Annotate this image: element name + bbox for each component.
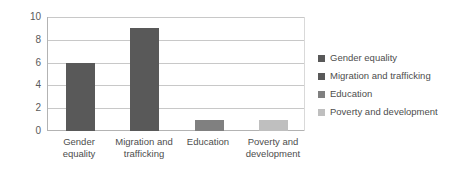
legend-item[interactable]: Education <box>318 85 463 103</box>
legend-label: Education <box>330 89 372 99</box>
legend-label: Gender equality <box>330 53 397 63</box>
y-tick-label: 2 <box>35 103 41 113</box>
gridline <box>48 40 304 41</box>
legend-swatch-icon <box>318 55 325 62</box>
y-tick-label: 8 <box>35 35 41 45</box>
bar <box>259 120 288 131</box>
plot-area <box>47 17 305 131</box>
legend-item[interactable]: Poverty and development <box>318 103 463 121</box>
legend-swatch-icon <box>318 73 325 80</box>
x-axis-categories: Gender equalityMigration and trafficking… <box>47 136 305 172</box>
y-tick-label: 4 <box>35 80 41 90</box>
x-category-label: Gender equality <box>47 136 111 159</box>
y-tick-label: 0 <box>35 126 41 136</box>
bar <box>130 28 159 131</box>
x-category-label: Education <box>176 136 240 148</box>
legend-label: Poverty and development <box>330 107 438 117</box>
legend-label: Migration and trafficking <box>330 71 431 81</box>
bar <box>195 120 224 131</box>
legend-item[interactable]: Gender equality <box>318 49 463 67</box>
x-category-label: Poverty and development <box>241 136 305 159</box>
legend: Gender equalityMigration and trafficking… <box>318 49 463 121</box>
legend-item[interactable]: Migration and trafficking <box>318 67 463 85</box>
y-tick-label: 10 <box>30 12 41 22</box>
x-category-label: Migration and trafficking <box>112 136 176 159</box>
y-tick-label: 6 <box>35 58 41 68</box>
legend-swatch-icon <box>318 109 325 116</box>
bar-chart: 0246810 Gender equalityMigration and tra… <box>0 0 463 176</box>
y-axis: 0246810 <box>0 17 41 131</box>
gridline <box>48 17 304 18</box>
bar <box>66 63 95 131</box>
legend-swatch-icon <box>318 91 325 98</box>
